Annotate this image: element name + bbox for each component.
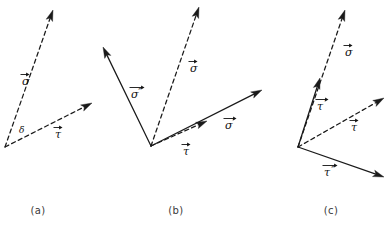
overbar-arrow-icon	[141, 85, 144, 89]
arrow-head-icon	[251, 90, 262, 98]
vector-label-text: τ	[351, 121, 358, 134]
vector-label-text: τ	[317, 100, 324, 113]
vector-label-c-tau: τ	[350, 118, 359, 134]
vector-b-sigma-prime: σ′	[151, 90, 262, 146]
vector-label-text: σ	[190, 62, 198, 75]
vector-label-b-sigma: σ	[189, 59, 199, 75]
overbar-arrow-icon	[334, 163, 337, 167]
vector-label-a-sigma: σ	[21, 72, 31, 88]
vector-label-text: τ	[55, 128, 62, 141]
vector-label-c-tau-double-prime: τ″	[323, 163, 338, 179]
panel-caption-a: (a)	[30, 205, 45, 216]
vector-label-b-sigma-prime: σ′	[224, 116, 237, 132]
vector-label-a-tau: τ	[54, 125, 63, 141]
vector-label-text: σ	[345, 46, 353, 59]
vector-c-tau-prime: τ′	[298, 78, 329, 147]
vector-c-tau-double-prime: τ″	[298, 147, 384, 179]
vector-label-b-tau: τ	[182, 142, 191, 158]
vector-label-c-sigma: σ	[344, 43, 354, 59]
captions-layer: (a)(b)(c)	[30, 205, 338, 216]
angle-label-delta: δ	[19, 125, 24, 135]
vector-label-text: τ	[183, 145, 190, 158]
vector-label-text: σ	[22, 75, 30, 88]
overbar-arrow-icon	[233, 116, 236, 120]
panel-a: στδ	[5, 10, 92, 147]
vector-b-sigma-double-prime: σ″	[103, 47, 151, 146]
vector-label-c-tau-prime: τ′	[316, 97, 329, 113]
panel-b: σ″στσ′	[103, 7, 262, 158]
panel-c: στ′ττ″	[298, 10, 384, 179]
overbar-arrow-icon	[325, 97, 328, 101]
vector-c-sigma: σ	[298, 10, 353, 147]
vector-shaft	[106, 54, 151, 146]
arrow-head-icon	[103, 47, 111, 58]
vector-shaft	[298, 147, 377, 174]
arrow-head-icon	[373, 98, 384, 106]
figure-root: στδσ″στσ′στ′ττ″ (a)(b)(c)	[0, 0, 392, 226]
vector-diagram-svg: στδσ″στσ′στ′ττ″ (a)(b)(c)	[0, 0, 392, 226]
vector-b-tau: τ	[151, 121, 207, 158]
vector-label-b-sigma-double-prime: σ″	[130, 85, 145, 101]
panel-caption-b: (b)	[168, 205, 183, 216]
vector-label-text: τ	[324, 166, 331, 179]
panels-layer: στδσ″στσ′στ′ττ″	[5, 7, 384, 179]
panel-caption-c: (c)	[324, 205, 339, 216]
arrow-head-icon	[81, 103, 92, 111]
